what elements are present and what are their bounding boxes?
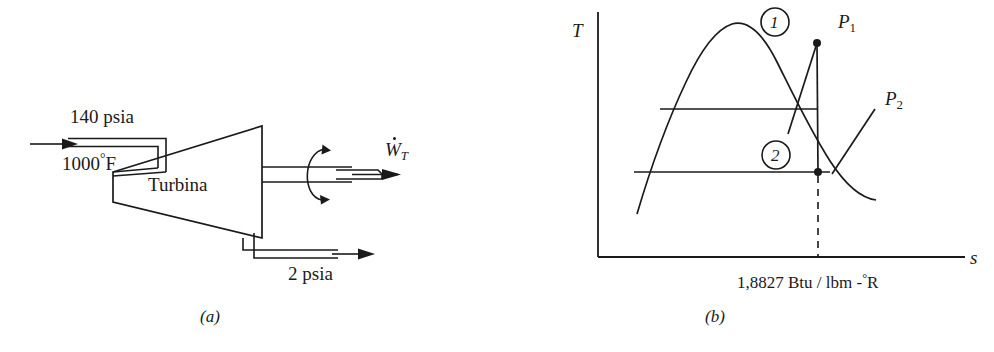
inlet-pressure-label: 140 psia: [70, 107, 134, 126]
y-axis-label: T: [572, 21, 583, 40]
isobar-p2-curve: [832, 109, 875, 174]
inlet-temperature-unit: F: [105, 153, 116, 174]
shaft-work-label: WT: [385, 140, 408, 163]
outlet-flow-arrow: [332, 249, 375, 260]
entropy-unit-text: R: [867, 273, 878, 292]
entropy-value-label: 1,8827 Btu / lbm -°R: [737, 272, 878, 291]
panel-b-caption: (b): [705, 307, 725, 327]
turbine-schematic-drawing: [0, 0, 500, 352]
isobar-p2-subscript: 2: [897, 97, 903, 112]
device-label: Turbina: [148, 175, 207, 194]
ts-diagram-panel: T s 1 2 P1 P2 1,8827 Btu / lbm -°R (b): [500, 0, 994, 352]
isobar-p1-label: P1: [838, 12, 856, 35]
state-label-2: 2: [771, 147, 780, 164]
isobar-p2-symbol: P: [885, 88, 897, 109]
isobar-p1-curve: [788, 43, 817, 134]
inlet-temperature-label: 1000°F: [62, 152, 116, 173]
state-point-2-marker: [814, 168, 822, 176]
work-subscript: T: [401, 148, 408, 163]
state-label-1: 1: [770, 14, 779, 31]
shaft-rotation-arrow: [307, 145, 331, 205]
panel-a-caption: (a): [200, 307, 220, 327]
entropy-value-text: 1,8827 Btu / lbm -: [737, 273, 862, 292]
isobar-p2-label: P2: [885, 89, 903, 112]
turbine-schematic-panel: 140 psia 1000°F Turbina 2 psia WT (a): [0, 0, 500, 352]
isentropic-process-line: [817, 43, 818, 172]
inlet-flow-arrow: [30, 139, 78, 150]
state-point-1-marker: [813, 39, 821, 47]
figure-page: 140 psia 1000°F Turbina 2 psia WT (a): [0, 0, 994, 352]
ts-axes: [598, 12, 965, 257]
x-axis-label: s: [970, 248, 977, 267]
ts-diagram-drawing: [500, 0, 994, 352]
isobar-p1-subscript: 1: [850, 20, 856, 35]
saturation-dome: [637, 23, 876, 214]
shaft-work-arrow: [336, 169, 401, 180]
isobar-p1-symbol: P: [838, 11, 850, 32]
inlet-temperature-value: 1000: [62, 153, 100, 174]
work-symbol: W: [385, 140, 401, 159]
outlet-pressure-label: 2 psia: [288, 264, 333, 283]
